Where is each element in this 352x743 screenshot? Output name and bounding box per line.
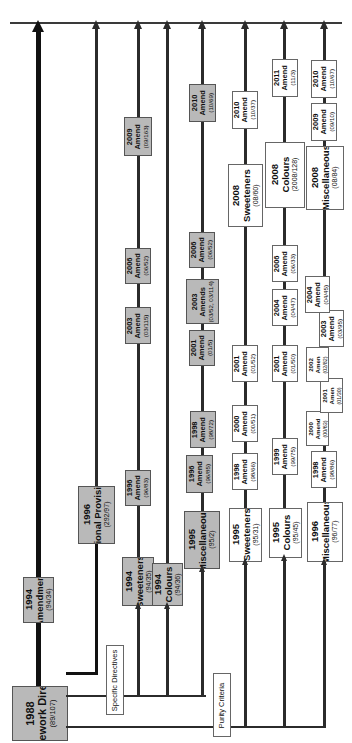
node-ref: (11/3) xyxy=(290,65,297,90)
label-purity-criteria-text: Purity Criteria xyxy=(218,682,227,727)
node-miscellaneous-1996-root[interactable]: 1996 'Miscellaneous' (96/77) xyxy=(307,502,343,562)
node-colours-1995-2006[interactable]: 2006 Amend (06/33) xyxy=(272,245,298,282)
node-ref: (08/84) xyxy=(332,146,340,210)
node-ref: (98/72) xyxy=(208,417,215,442)
node-miscellaneous-1995-2003[interactable]: 2003 Amends (03/52, 03/114) xyxy=(186,279,219,324)
track-arrowhead-framework xyxy=(32,20,44,32)
node-national-provisions-root[interactable]: 1996 National Provisions (292/97) xyxy=(78,486,115,544)
node-name: 'Miscellaneous' xyxy=(321,502,332,562)
node-ref: (10/37) xyxy=(250,97,257,122)
node-sweeteners-1995-2010[interactable]: 2010 Amend (10/37) xyxy=(232,91,258,129)
node-ref: (98/86) xyxy=(329,457,336,482)
connector-arrowhead-sweeteners-1994 xyxy=(135,602,141,609)
connector-arrowhead-colours-1994 xyxy=(164,602,170,609)
node-sweeteners-1995-2008[interactable]: 2008 Sweeteners (08/60) xyxy=(228,164,263,227)
node-ref: (03/95) xyxy=(336,316,343,341)
node-miscellaneous-1996-2008[interactable]: 2008 'Miscellaneous' (08/84) xyxy=(306,146,344,210)
node-ref: (95/31) xyxy=(252,509,260,562)
node-miscellaneous-1996-1998[interactable]: 1998 Amend (98/86) xyxy=(311,451,337,488)
node-miscellaneous-1996-2004[interactable]: 2004 Amend (04/45) xyxy=(305,276,330,313)
connector-arrowhead-miscellaneous-1996 xyxy=(321,558,327,565)
track-arrowhead-colours-1995 xyxy=(280,20,288,29)
node-ref: (95/2) xyxy=(209,511,217,569)
node-sweeteners-1994-2009[interactable]: 2009 Amend (09/163) xyxy=(124,117,152,156)
connector-arrowhead-colours-1995 xyxy=(281,554,287,561)
node-ref: (00/51) xyxy=(250,411,257,436)
node-sweeteners-1995-1998[interactable]: 1998 Amend (98/66) xyxy=(232,453,258,490)
connector-purity-criteria-bus xyxy=(66,726,326,728)
timeline-diagram: 1988 Framework Directive (89/107) 1994 A… xyxy=(0,0,352,743)
node-colours-1995-2011[interactable]: 2011 Amend (11/3) xyxy=(272,59,298,97)
label-purity-criteria: Purity Criteria xyxy=(213,673,231,737)
node-sweeteners-1994-root[interactable]: 1994 Sweeteners (94/35) xyxy=(122,557,154,606)
node-framework-root[interactable]: 1988 Framework Directive (89/107) xyxy=(12,686,68,741)
node-colours-1994-root[interactable]: 1994 Colours (94/36) xyxy=(152,563,183,606)
node-sweeteners-1995-root[interactable]: 1995 Sweeteners (95/31) xyxy=(229,508,262,562)
node-ref: (2008/128) xyxy=(292,157,300,193)
node-ref: (96/83) xyxy=(143,475,150,500)
node-miscellaneous-1996-2001[interactable]: 2001 Amen (01/30) xyxy=(320,378,343,413)
track-arrowhead-miscellaneous-1996 xyxy=(320,20,328,29)
node-miscellaneous-1995-2001[interactable]: 2001 Amend (01/5) xyxy=(189,330,215,366)
node-miscellaneous-1996-2010[interactable]: 2010 Amend (10/67) xyxy=(311,60,337,98)
node-colours-1995-root[interactable]: 1995 Colours (95/45) xyxy=(269,508,302,558)
node-ref: (89/107) xyxy=(48,686,56,741)
node-name: Framework Directive xyxy=(36,686,48,741)
node-ref: (94/36) xyxy=(174,567,182,603)
node-miscellaneous-1996-2000[interactable]: 2000 Amend (00/63) xyxy=(306,411,329,446)
node-colours-1995-2004[interactable]: 2004 Amend (04/47) xyxy=(272,289,298,326)
node-name: Colours xyxy=(164,567,175,603)
node-name: Colours xyxy=(281,157,292,193)
connector-riser-sweeteners-1994 xyxy=(137,606,140,696)
node-sweeteners-1995-2000[interactable]: 2000 Amend (00/51) xyxy=(232,405,258,442)
connector-arrowhead-miscellaneous-1995 xyxy=(199,565,205,572)
node-colours-1995-2008[interactable]: 2008 Colours (2008/128) xyxy=(265,142,305,208)
node-colours-1995-2001[interactable]: 2001 Amend (01/50) xyxy=(272,345,298,382)
node-sweeteners-1994-2003[interactable]: 2003 Amend (03/115) xyxy=(125,307,151,344)
node-sweeteners-1995-2001[interactable]: 2001 Amend (01/52) xyxy=(232,345,258,382)
node-ref: (09/163) xyxy=(143,124,150,149)
node-name: Amen xyxy=(328,387,335,404)
connector-riser-colours-1994 xyxy=(166,606,169,696)
node-miscellaneous-1996-2002[interactable]: 2002 Amen (02/82) xyxy=(306,347,329,382)
node-miscellaneous-1996-2003[interactable]: 2003 Amend (03/95) xyxy=(319,310,344,347)
node-miscellaneous-1995-2006[interactable]: 2006 Amend (06/52) xyxy=(189,232,215,268)
node-ref: (04/47) xyxy=(290,295,297,320)
track-arrowhead-national-provisions xyxy=(92,20,100,29)
node-ref: (10/67) xyxy=(329,66,336,91)
node-year: 1988 xyxy=(23,686,35,741)
node-ref: (96/77) xyxy=(332,502,340,562)
label-specific-directives-text: Specific Directives xyxy=(111,649,120,710)
node-name: 'Miscellaneous' xyxy=(198,511,209,569)
node-name: Sweeteners xyxy=(242,169,253,222)
track-arrowhead-miscellaneous-1995 xyxy=(198,20,206,29)
node-name: Sweeteners xyxy=(134,557,145,606)
node-sweeteners-1994-2006[interactable]: 2006 Amend (06/52) xyxy=(125,248,151,284)
node-year: 1994 xyxy=(153,567,164,603)
track-arrowhead-sweeteners-1994 xyxy=(134,20,142,29)
node-colours-1995-1999[interactable]: 1999 Amend (99/75) xyxy=(272,438,298,475)
node-ref: (10/69) xyxy=(207,90,214,115)
node-ref: (03/52, 03/114) xyxy=(207,281,214,323)
node-framework-1994[interactable]: 1994 Amendment (94/34) xyxy=(23,577,54,623)
connector-riser-colours-1995 xyxy=(283,558,286,727)
node-miscellaneous-1996-2009[interactable]: 2009 Amend (09/10) xyxy=(311,103,337,141)
node-ref: (01/30) xyxy=(335,387,341,404)
node-name: National Provisions xyxy=(93,486,104,544)
node-miscellaneous-1995-1996[interactable]: 1996 Amend (96/85) xyxy=(186,455,213,493)
track-line-national-provisions xyxy=(95,26,98,544)
node-sweeteners-1994-1996[interactable]: 1996 Amend (96/83) xyxy=(125,470,151,506)
node-miscellaneous-1995-2010[interactable]: 2010 Amend (10/69) xyxy=(189,84,216,122)
node-name: Sweeteners xyxy=(242,509,253,562)
node-ref: (01/50) xyxy=(290,351,297,376)
connector-framework-to-national xyxy=(66,672,98,675)
track-arrowhead-sweeteners-1995 xyxy=(241,20,249,29)
node-ref: (06/52) xyxy=(143,253,150,278)
node-year: 1994 xyxy=(123,557,134,606)
connector-specific-directives-bus xyxy=(66,695,206,697)
node-miscellaneous-1995-1998[interactable]: 1998 Amend (98/72) xyxy=(190,411,216,448)
node-ref: (292/97) xyxy=(103,486,111,544)
connector-arrowhead-sweeteners-1995 xyxy=(242,558,248,565)
node-miscellaneous-1995-root[interactable]: 1995 'Miscellaneous' (95/2) xyxy=(184,511,220,569)
node-ref: (98/66) xyxy=(250,459,257,484)
